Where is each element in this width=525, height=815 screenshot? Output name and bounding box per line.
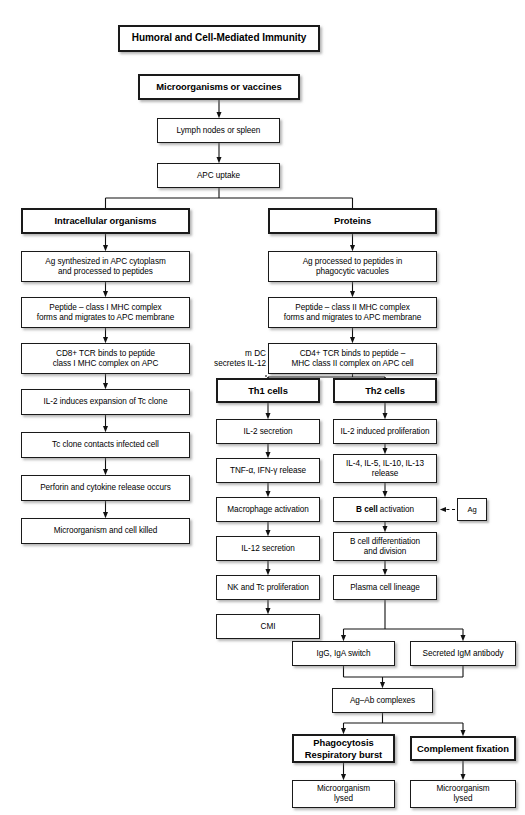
node-label-micro_kill: Microorganism and cell killed — [54, 526, 158, 536]
node-label-il12_sec: IL-12 secretion — [241, 544, 294, 554]
node-label-title: Humoral and Cell-Mediated Immunity — [132, 32, 306, 44]
node-lysed2: Microorganism lysed — [410, 780, 516, 808]
node-label-macro: Macrophage activation — [227, 505, 308, 515]
edge-ig-merge-bus — [344, 666, 464, 677]
node-bcell_diff: B cell differentiation and division — [333, 532, 437, 561]
node-label-lysed2: Microorganism lysed — [436, 784, 489, 804]
node-label-cmi: CMI — [261, 622, 276, 632]
node-agab: Ag–Ab complexes — [332, 688, 433, 713]
node-plasma: Plasma cell lineage — [333, 575, 437, 600]
node-apc: APC uptake — [157, 163, 280, 188]
node-label-nk: NK and Tc proliferation — [227, 583, 309, 593]
node-ag_syn: Ag synthesized in APC cytoplasm and proc… — [21, 251, 190, 282]
node-cd8: CD8+ TCR binds to peptide class I MHC co… — [21, 343, 190, 374]
flowchart-canvas: m DC secretes IL-12 Humoral and Cell-Med… — [0, 0, 525, 815]
node-label-bcell_diff: B cell differentiation and division — [350, 537, 420, 557]
node-title: Humoral and Cell-Mediated Immunity — [118, 25, 320, 52]
node-label-apc: APC uptake — [197, 171, 240, 181]
node-label-intra: Intracellular organisms — [54, 215, 156, 226]
node-micro: Microorganisms or vaccines — [138, 74, 300, 100]
node-label-ag_syn: Ag synthesized in APC cytoplasm and proc… — [45, 257, 165, 277]
node-il2_prolif: IL-2 induced proliferation — [333, 419, 437, 444]
node-label-complement: Complement fixation — [417, 743, 509, 754]
node-phago: Phagocytosis Respiratory burst — [292, 734, 395, 763]
node-nk: NK and Tc proliferation — [216, 575, 320, 600]
node-il2_exp: IL-2 induces expansion of Tc clone — [21, 389, 190, 415]
node-label-il4: IL-4, IL-5, IL-10, IL-13 release — [346, 459, 424, 479]
node-label-tnf: TNF-α, IFN-γ release — [230, 466, 306, 476]
node-label-il2_sec: IL-2 secretion — [244, 427, 293, 437]
node-label-lysed1: Microorganism lysed — [317, 784, 370, 804]
node-micro_kill: Microorganism and cell killed — [21, 518, 190, 544]
node-ag_box: Ag — [457, 498, 487, 521]
node-label-igm: Secreted IgM antibody — [423, 649, 504, 659]
node-igm: Secreted IgM antibody — [410, 641, 516, 666]
node-label-pep1: Peptide – class I MHC complex forms and … — [37, 303, 175, 323]
node-label-plasma: Plasma cell lineage — [350, 583, 420, 593]
node-pep1: Peptide – class I MHC complex forms and … — [21, 297, 190, 328]
edge-apc-split — [106, 188, 353, 208]
node-label-th2: Th2 cells — [365, 385, 405, 396]
node-label-perforin: Perforin and cytokine release occurs — [40, 483, 171, 493]
node-th2: Th2 cells — [333, 378, 437, 403]
node-lymph: Lymph nodes or spleen — [157, 118, 280, 143]
node-cd4: CD4+ TCR binds to peptide – MHC class II… — [268, 343, 437, 374]
edge-plasma-split-bus — [344, 600, 464, 629]
node-complement: Complement fixation — [410, 736, 516, 761]
node-label-proteins: Proteins — [334, 215, 371, 226]
node-pep2: Peptide – class II MHC complex forms and… — [268, 297, 437, 328]
node-intra: Intracellular organisms — [21, 208, 190, 234]
node-label-tc_contact: Tc clone contacts infected cell — [52, 440, 159, 450]
node-label-il2_exp: IL-2 induces expansion of Tc clone — [44, 397, 168, 407]
node-perforin: Perforin and cytokine release occurs — [21, 475, 190, 501]
node-th1: Th1 cells — [216, 378, 320, 403]
edge-agab-split-bus — [344, 713, 464, 723]
node-cmi: CMI — [216, 614, 320, 639]
node-label-lymph: Lymph nodes or spleen — [177, 126, 261, 136]
node-igg: IgG, IgA switch — [292, 641, 395, 666]
node-ag_proc: Ag processed to peptides in phagocytic v… — [268, 251, 437, 282]
node-bcell_act: B cell activation — [333, 497, 437, 522]
node-il4: IL-4, IL-5, IL-10, IL-13 release — [333, 454, 437, 483]
node-label-bcell_act: B cell activation — [356, 505, 414, 515]
node-il12_sec: IL-12 secretion — [216, 536, 320, 561]
node-label-cd4: CD4+ TCR binds to peptide – MHC class II… — [291, 349, 413, 369]
node-label-agab: Ag–Ab complexes — [350, 696, 415, 706]
node-label-igg: IgG, IgA switch — [317, 649, 371, 659]
node-lysed1: Microorganism lysed — [292, 780, 395, 808]
node-tc_contact: Tc clone contacts infected cell — [21, 432, 190, 458]
node-label-ag_box: Ag — [467, 505, 476, 514]
node-label-pep2: Peptide – class II MHC complex forms and… — [284, 303, 422, 323]
node-label-ag_proc: Ag processed to peptides in phagocytic v… — [303, 257, 403, 277]
node-label-micro: Microorganisms or vaccines — [156, 81, 281, 92]
node-label-th1: Th1 cells — [248, 385, 288, 396]
node-proteins: Proteins — [268, 208, 437, 234]
annotation-mdc: m DC secretes IL-12 — [196, 349, 266, 369]
node-label-phago: Phagocytosis Respiratory burst — [305, 737, 382, 760]
node-il2_sec: IL-2 secretion — [216, 419, 320, 444]
node-macro: Macrophage activation — [216, 497, 320, 522]
node-label-il2_prolif: IL-2 induced proliferation — [341, 427, 430, 437]
node-label-cd8: CD8+ TCR binds to peptide class I MHC co… — [53, 349, 159, 369]
node-tnf: TNF-α, IFN-γ release — [216, 458, 320, 483]
